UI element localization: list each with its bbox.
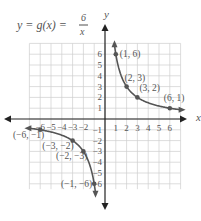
x-tick-label: −2 bbox=[79, 122, 89, 132]
x-axis-label: x bbox=[195, 111, 201, 123]
x-tick-label: 6 bbox=[168, 123, 173, 133]
x-tick-label: 2 bbox=[124, 123, 129, 133]
y-tick-label: 3 bbox=[98, 82, 103, 92]
y-tick-label: −4 bbox=[92, 157, 102, 167]
y-tick-label: 1 bbox=[98, 103, 103, 113]
x-tick-label: 1 bbox=[114, 123, 119, 133]
point-label: (2, 3) bbox=[125, 73, 146, 84]
graph-of-g: −6−5−4−3−2123456654321−1−2−3−4−5−6(1, 6)… bbox=[0, 0, 201, 221]
y-tick-label: −3 bbox=[92, 146, 102, 156]
y-tick-label: 6 bbox=[98, 49, 103, 59]
y-tick-label: −1 bbox=[92, 125, 102, 135]
data-point bbox=[124, 84, 129, 89]
point-label: (−1, −6) bbox=[61, 179, 92, 190]
curve-arrow-icon bbox=[179, 107, 186, 113]
y-axis-label: y bbox=[103, 8, 109, 20]
x-tick-label: −3 bbox=[68, 122, 78, 132]
y-tick-label: 2 bbox=[98, 92, 103, 102]
point-label: (−2, −3) bbox=[56, 151, 87, 162]
x-axis-arrow-left-icon bbox=[4, 116, 11, 123]
title-numerator: 6 bbox=[81, 12, 86, 23]
point-label: (3, 2) bbox=[139, 83, 160, 94]
curve-arrow-icon bbox=[112, 40, 118, 47]
point-label: (6, 1) bbox=[164, 93, 185, 104]
x-tick-label: −5 bbox=[46, 122, 56, 132]
point-label: (−6, −1) bbox=[13, 130, 44, 141]
title-lhs: y = g(x) = bbox=[16, 18, 67, 32]
title: y = g(x) = 6 x bbox=[16, 12, 88, 37]
point-label: (−3, −2) bbox=[42, 141, 73, 152]
y-tick-label: −2 bbox=[92, 136, 102, 146]
y-axis-arrow-up-icon bbox=[102, 24, 109, 31]
x-tick-label: 4 bbox=[146, 123, 151, 133]
title-denominator: x bbox=[79, 26, 85, 37]
x-tick-label: 5 bbox=[157, 123, 162, 133]
y-axis-arrow-down-icon bbox=[102, 203, 109, 210]
curve-arrow-icon bbox=[92, 191, 98, 198]
data-point bbox=[114, 52, 119, 57]
x-axis-arrow-right-icon bbox=[180, 116, 187, 123]
data-point bbox=[168, 106, 173, 111]
x-tick-label: −4 bbox=[57, 122, 67, 132]
y-tick-label: 5 bbox=[98, 60, 103, 70]
y-tick-label: 4 bbox=[98, 71, 103, 81]
x-tick-label: 3 bbox=[135, 123, 140, 133]
y-tick-label: −5 bbox=[92, 168, 102, 178]
y-tick-label: −6 bbox=[92, 179, 102, 189]
data-point bbox=[135, 95, 140, 100]
point-label: (1, 6) bbox=[120, 49, 141, 60]
